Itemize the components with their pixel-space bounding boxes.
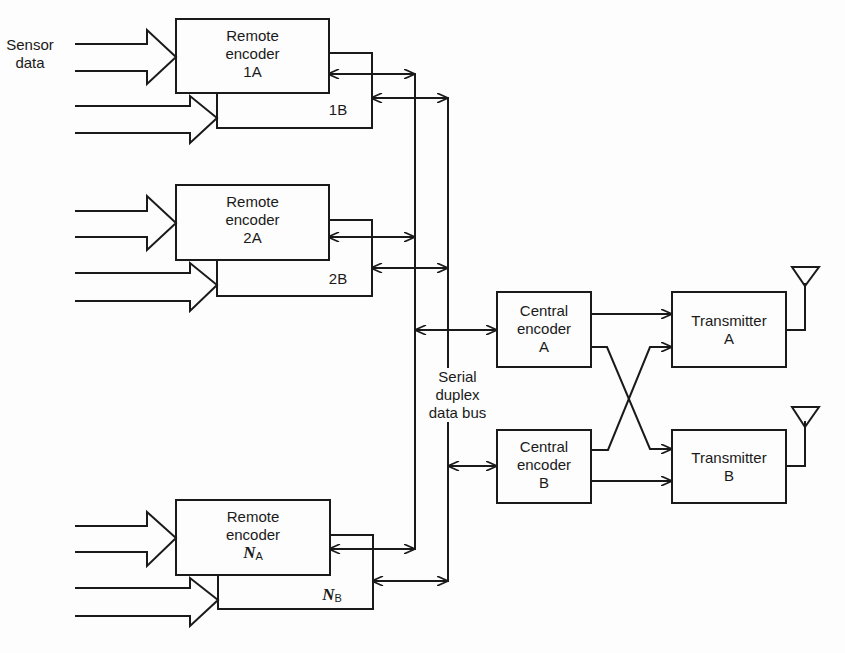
remote-encoder-1b-label: 1B (318, 101, 358, 119)
label-line: encoder (176, 45, 329, 63)
central-encoder-a-label: Central encoder A (497, 302, 591, 356)
label-line: Central (497, 302, 591, 320)
label-line: NA (176, 544, 330, 565)
central-encoder-b-label: Central encoder B (497, 438, 591, 492)
subscript: B (334, 592, 341, 604)
subscript: A (255, 550, 262, 562)
antenna-a-feed (786, 283, 805, 330)
label-line: B (672, 467, 786, 485)
remote-encoder-1a-label: Remote encoder 1A (176, 27, 329, 81)
n-symbol: N (243, 543, 255, 562)
label-line: Remote (176, 508, 330, 526)
label-line: A (497, 338, 591, 356)
transmitter-b-label: Transmitter B (672, 449, 786, 485)
label-line: 2A (176, 229, 329, 247)
label-line: data bus (420, 404, 495, 422)
label-line: Remote (176, 27, 329, 45)
label-line: Transmitter (672, 312, 786, 330)
remote-encoder-2b-label: 2B (318, 270, 358, 288)
remote-encoder-2a-label: Remote encoder 2A (176, 193, 329, 247)
block-diagram: Sensor data Remote encoder 1A 1B Remote … (0, 0, 845, 653)
label-line: Central (497, 438, 591, 456)
sensor-label-line1: Sensor (0, 36, 60, 54)
antenna-b-feed (786, 421, 805, 466)
bus-label: Serial duplex data bus (420, 368, 495, 422)
label-line: encoder (176, 526, 330, 544)
label-line: encoder (497, 320, 591, 338)
serial-duplex-data-bus (415, 73, 497, 582)
label-line: Serial (420, 368, 495, 386)
transmitter-a-label: Transmitter A (672, 312, 786, 348)
sensor-data-label: Sensor data (0, 36, 60, 72)
label-line: Remote (176, 193, 329, 211)
label-line: B (497, 474, 591, 492)
label-line: 1A (176, 63, 329, 81)
n-symbol: N (322, 585, 334, 604)
label-line: Transmitter (672, 449, 786, 467)
label-line: A (672, 330, 786, 348)
remote-encoder-nb-label: NB (312, 586, 352, 607)
label-line: encoder (176, 211, 329, 229)
label-line: duplex (420, 386, 495, 404)
label-line: encoder (497, 456, 591, 474)
sensor-label-line2: data (0, 54, 60, 72)
remote-encoder-na-label: Remote encoder NA (176, 508, 330, 565)
